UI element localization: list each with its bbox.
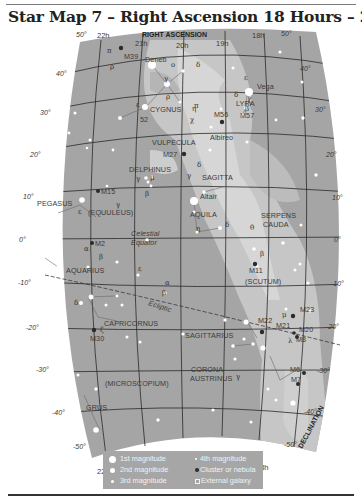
label-serpens: SERPENS — [261, 211, 296, 220]
greek-lambda: λ — [288, 337, 293, 345]
label-scutum: (SCUTUM) — [245, 277, 281, 286]
greek-delta-cap: δ — [74, 299, 78, 307]
greek-gamma-sge: γ — [187, 172, 191, 180]
label-m23: M23 — [300, 305, 314, 314]
greek-beta-aqr: β — [99, 253, 103, 261]
greek-theta: θ — [250, 224, 254, 232]
dec-left-m40: -40° — [52, 409, 65, 416]
label-vega: Vega — [257, 82, 274, 91]
label-m20: M20 — [299, 325, 313, 334]
label-aquila: AQUILA — [190, 210, 217, 219]
greek-gamma-cyg: γ — [164, 75, 168, 83]
greek-beta-sct: β — [260, 250, 264, 258]
label-52: 52 — [140, 115, 148, 124]
dec-right-0: 0° — [334, 236, 341, 243]
legend-mag2: 2nd magnitude — [110, 465, 168, 474]
greek-zeta: ζ — [248, 97, 252, 105]
greek-epsilon-cyg: ε — [136, 101, 140, 109]
dec-right-m50: -50° — [284, 441, 297, 448]
label-m11: M11 — [249, 266, 263, 275]
dec-right-m20: -20° — [326, 323, 339, 330]
label-m15: M15 — [101, 187, 115, 196]
greek-beta-lyr: β — [245, 105, 249, 113]
label-pegasus: PEGASUS — [37, 199, 73, 208]
star-chart: CYGNUS LYRA VULPECULA DELPHINUS SAGITTA … — [0, 0, 362, 502]
mag4-star-icon — [195, 458, 197, 460]
dec-right-40: 40° — [300, 65, 311, 72]
greek-rho: ρ — [110, 63, 114, 71]
mag3-star-icon — [111, 480, 114, 483]
legend-mag1: 1st magnitude — [109, 454, 166, 463]
label-sagittarius: SAGITTARIUS — [185, 331, 234, 340]
label-delphinus: DELPHINUS — [129, 165, 171, 174]
greek-gamma-equ: γ — [116, 201, 120, 209]
ra-top-22h: 22h — [97, 31, 110, 40]
label-aquarius: AQUARIUS — [66, 266, 104, 275]
dec-right-m10: -10° — [331, 280, 344, 287]
label-albireo: Albireo — [210, 133, 233, 142]
label-capricornus: CAPRICORNUS — [104, 319, 158, 328]
dec-left-10: 10° — [23, 193, 34, 200]
ra-top-18h: 18h — [252, 31, 265, 40]
label-cauda: CAUDA — [263, 220, 289, 229]
greek-epsilon-aqr: ε — [138, 265, 142, 273]
dec-left-m20: -20° — [26, 324, 39, 331]
mag1-star-icon — [109, 456, 116, 463]
dec-right-10: 10° — [332, 194, 343, 201]
label-equuleus: (EQUULEUS) — [88, 208, 133, 217]
label-m22: M22 — [258, 316, 272, 325]
dec-left-30: 30° — [40, 109, 51, 116]
cluster-icon — [195, 468, 199, 472]
legend-galaxy: External galaxy — [195, 476, 251, 485]
greek-beta-del: β — [145, 190, 149, 198]
dec-right-30: 30° — [315, 106, 326, 113]
mag2-star-icon — [110, 468, 115, 473]
ra-axis-title: RIGHT ASCENSION — [142, 31, 207, 38]
legend: 1st magnitude 2nd magnitude 3rd magnitud… — [103, 451, 263, 489]
label-m30: M30 — [90, 334, 104, 343]
label-m8: M8 — [296, 335, 306, 344]
label-m21: M21 — [276, 321, 290, 330]
label-m6: M6 — [290, 365, 300, 374]
label-vulpecula: VULPECULA — [152, 138, 196, 147]
greek-mu: μ — [150, 174, 155, 182]
greek-zeta-cap: ζ — [100, 326, 104, 334]
dec-right-50: 50° — [281, 30, 292, 37]
galaxy-icon — [195, 479, 200, 484]
greek-alpha-cap: α — [165, 279, 170, 287]
greek-rho-cyg: ρ — [166, 93, 170, 101]
greek-gamma-del: γ — [136, 175, 140, 183]
label-cygnus: CYGNUS — [150, 105, 181, 114]
bottom-rule — [8, 494, 354, 496]
dec-left-0: 0° — [19, 236, 26, 243]
dec-left-m50: -50° — [73, 443, 86, 450]
dec-left-40: 40° — [56, 70, 67, 77]
label-m39: M39 — [124, 52, 138, 61]
greek-delta-lyr: δ — [234, 91, 238, 99]
label-deneb: Deneb — [145, 55, 167, 64]
label-m7: M7 — [291, 375, 301, 384]
greek-omicron: ο — [171, 61, 175, 69]
ra-top-20h: 20h — [176, 41, 189, 50]
dec-right-m30: -30° — [317, 367, 330, 374]
greek-mu-sgr: μ — [282, 311, 287, 319]
dec-left-m10: -10° — [18, 279, 31, 286]
label-equator: Equator — [131, 238, 157, 247]
label-m27: M27 — [163, 150, 177, 159]
legend-mag4: 4th magnitude — [195, 454, 246, 463]
greek-delta-cyg: δ — [196, 61, 200, 69]
dec-right-20: 20° — [325, 151, 337, 158]
label-grus: GRUS — [86, 403, 107, 412]
label-microscopium: (MICROSCOPIUM) — [105, 379, 169, 388]
label-m56: M56 — [214, 110, 228, 119]
greek-beta-cap: β — [162, 289, 166, 297]
dec-left-20: 20° — [29, 151, 41, 158]
dec-left-m30: -30° — [36, 366, 49, 373]
greek-gamma-cra: γ — [236, 373, 240, 381]
greek-alpha: α — [84, 245, 89, 253]
label-sagitta: SAGITTA — [202, 173, 233, 182]
greek-delta-sge: δ — [197, 161, 201, 169]
legend-cluster: Cluster or nebula — [195, 465, 256, 474]
greek-pi-lyr: π — [194, 102, 199, 110]
label-corona: CORONA — [191, 365, 223, 374]
